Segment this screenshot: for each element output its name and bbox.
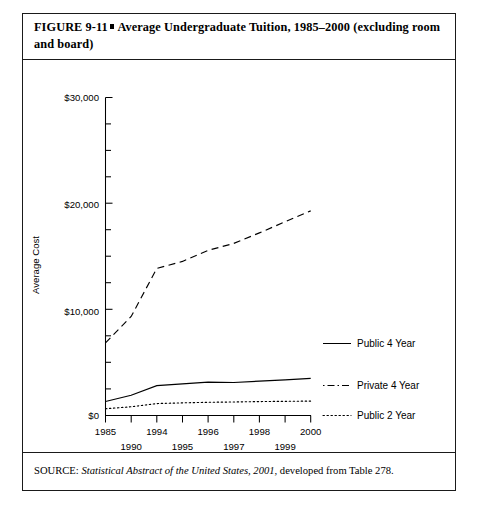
legend-label-public-2-year: Public 2 Year [357,410,416,421]
y-tick-label-30000: $30,000 [64,92,99,103]
y-tick-label-0: $0 [88,410,99,421]
y-tick-label-20000: $20,000 [64,199,99,210]
chart-axes [106,98,312,416]
figure-caption: FIGURE 9-11Average Undergraduate Tuition… [34,19,442,52]
x-tick-label-1985: 1985 [95,426,116,437]
legend-label-public-4-year: Public 4 Year [357,338,416,349]
x-tick-label-1994: 1994 [146,426,168,437]
legend-label-private-4-year: Private 4 Year [357,380,420,391]
x-tick-label-1999: 1999 [274,441,295,452]
series-line-public-2-year [106,401,311,409]
figure-source-bar: SOURCE: Statistical Abstract of the Unit… [23,452,455,490]
figure-source: SOURCE: Statistical Abstract of the Unit… [34,465,394,476]
series-line-public-4-year [106,378,311,401]
x-tick-label-1998: 1998 [249,426,270,437]
x-tick-label-1995: 1995 [172,441,193,452]
figure-container: FIGURE 9-11Average Undergraduate Tuition… [22,13,456,491]
x-tick-label-1997: 1997 [223,441,244,452]
source-citation: Statistical Abstract of the United State… [81,465,274,476]
y-tick-label-10000: $10,000 [64,306,99,317]
square-bullet-icon [110,24,115,29]
x-tick-label-1996: 1996 [197,426,218,437]
chart-plot-region: Average Cost $30,000 $20,000 $10,000 $0 [23,60,457,454]
series-line-private-4-year [106,211,311,343]
figure-caption-bar: FIGURE 9-11Average Undergraduate Tuition… [23,14,455,60]
x-tick-label-1990: 1990 [121,441,142,452]
x-tick-label-2000: 2000 [300,426,321,437]
figure-number: FIGURE 9-11 [34,20,108,34]
source-prefix: SOURCE: [34,465,79,476]
y-axis-title: Average Cost [30,236,41,294]
source-suffix: , developed from Table 278. [275,465,394,476]
tuition-line-chart: Average Cost $30,000 $20,000 $10,000 $0 [23,60,457,454]
